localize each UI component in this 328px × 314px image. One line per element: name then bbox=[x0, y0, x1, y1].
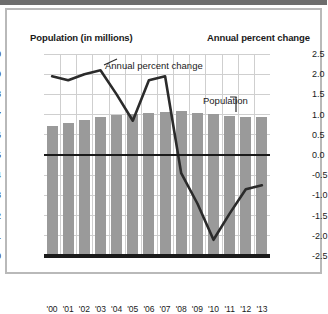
right-axis-tick-label: 1.0 bbox=[312, 110, 325, 120]
x-axis-tick-label: '07 bbox=[160, 304, 171, 314]
x-axis-tick-label: '00 bbox=[47, 304, 58, 314]
right-axis-tick-label: -1.0 bbox=[312, 190, 328, 200]
right-axis-tick-label: 0.0 bbox=[312, 150, 325, 160]
right-axis-tick-label: -2.0 bbox=[312, 231, 328, 241]
left-axis-tick-label: 4 bbox=[0, 170, 1, 180]
left-axis-tick-label: 7 bbox=[0, 110, 1, 120]
right-axis-tick-label: 0.5 bbox=[312, 130, 325, 140]
left-axis-tick-label: 6 bbox=[0, 130, 1, 140]
top-rule bbox=[0, 0, 327, 5]
zero-percent-reference-line bbox=[44, 154, 270, 156]
left-axis-tick-label: 0 bbox=[0, 251, 1, 261]
right-axis-tick-label: -0.5 bbox=[312, 170, 328, 180]
right-axis-tick-label: 2.5 bbox=[312, 49, 325, 59]
left-axis-tick-label: 2 bbox=[0, 211, 1, 221]
left-axis-tick-label: 10 bbox=[0, 49, 1, 59]
x-axis-tick-label: '03 bbox=[95, 304, 106, 314]
x-axis-tick-label: '04 bbox=[111, 304, 122, 314]
left-axis-tick-label: 1 bbox=[0, 231, 1, 241]
plot-area: 012345678910 2.52.01.51.00.50.0-0.5-1.0-… bbox=[44, 54, 270, 256]
right-axis-title: Annual percent change bbox=[207, 32, 310, 43]
left-axis-tick-label: 3 bbox=[0, 190, 1, 200]
x-axis-tick-label: '13 bbox=[256, 304, 267, 314]
right-axis-tick-label: -1.5 bbox=[312, 211, 328, 221]
x-axis-tick-label: '02 bbox=[79, 304, 90, 314]
x-axis-baseline bbox=[44, 254, 270, 256]
x-axis-tick-label: '10 bbox=[208, 304, 219, 314]
x-axis-tick-label: '08 bbox=[176, 304, 187, 314]
x-axis-tick-label: '06 bbox=[143, 304, 154, 314]
left-axis-tick-label: 9 bbox=[0, 69, 1, 79]
line-series-label: Annual percent change bbox=[105, 60, 203, 71]
x-axis-tick-label: '09 bbox=[192, 304, 203, 314]
x-axis-tick-label: '01 bbox=[63, 304, 74, 314]
x-axis-tick-label: '11 bbox=[224, 304, 234, 314]
right-axis-tick-label: 1.5 bbox=[312, 89, 325, 99]
left-axis-title: Population (in millions) bbox=[30, 32, 133, 43]
left-axis-tick-label: 5 bbox=[0, 150, 1, 160]
left-axis-tick-label: 8 bbox=[0, 89, 1, 99]
right-axis-tick-label: 2.0 bbox=[312, 69, 325, 79]
x-axis-tick-label: '12 bbox=[240, 304, 251, 314]
bar-series-label: Population bbox=[203, 95, 248, 106]
chart-panel: Population (in millions) Annual percent … bbox=[5, 8, 322, 274]
x-axis-tick-label: '05 bbox=[127, 304, 138, 314]
right-axis-tick-label: -2.5 bbox=[312, 251, 328, 261]
